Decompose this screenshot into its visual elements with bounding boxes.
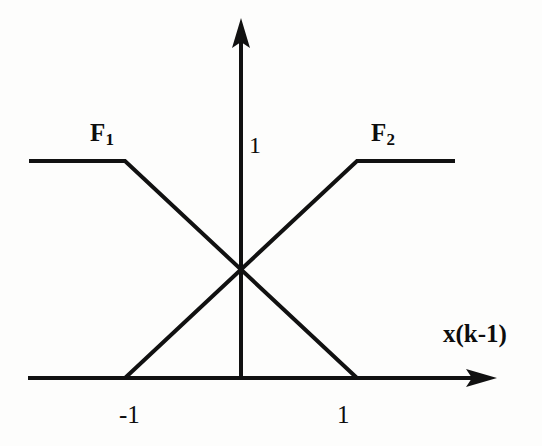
- x-tick-label-positive-one: 1: [337, 402, 350, 427]
- curve-label-f1: F1: [90, 120, 114, 145]
- x-tick-label-negative-one: -1: [119, 402, 140, 427]
- figure-canvas: [0, 0, 542, 446]
- membership-curve-f2: [125, 161, 455, 378]
- curve-label-f2: F2: [371, 120, 395, 145]
- x-axis-title-label: x(k-1): [443, 321, 507, 346]
- membership-curve-f1: [29, 161, 357, 378]
- fuzzy-membership-figure: F1 F2 1 -1 1 x(k-1): [0, 0, 542, 446]
- y-axis-value-label: 1: [249, 133, 261, 157]
